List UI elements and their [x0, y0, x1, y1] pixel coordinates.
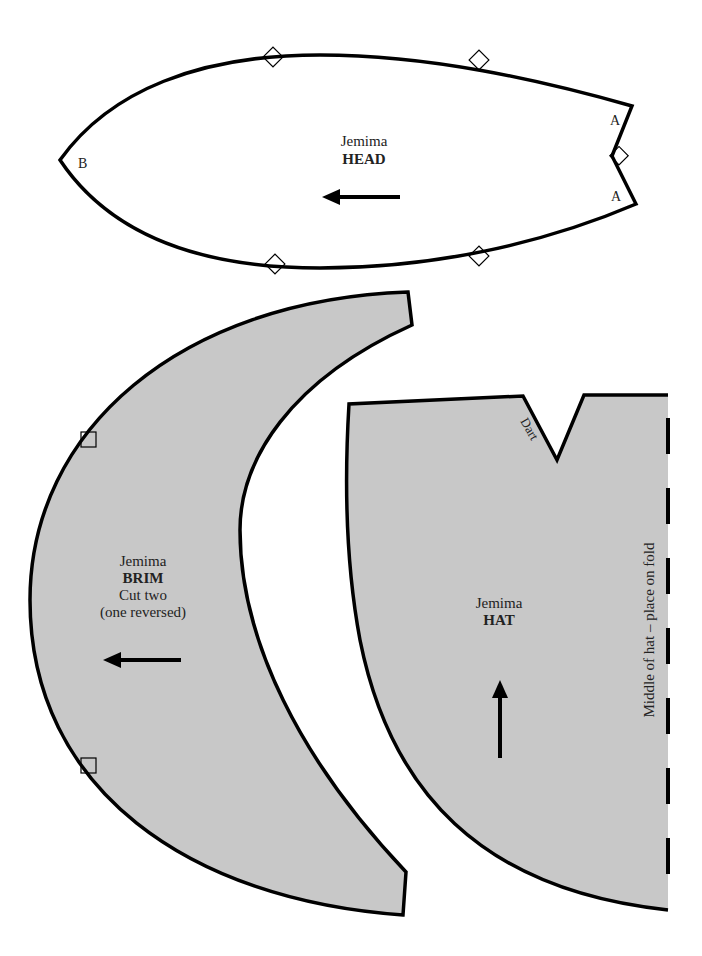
brim-cut-instruction: Cut two	[119, 587, 167, 603]
hat-pattern-piece: Dart Middle of hat – place on fold Jemim…	[347, 395, 668, 910]
hat-piece-name: Jemima	[476, 595, 523, 611]
hat-fill	[347, 395, 668, 910]
head-piece-name: Jemima	[341, 133, 388, 149]
head-piece-title: HEAD	[342, 151, 386, 167]
head-pattern-piece: B A A Jemima HEAD	[60, 47, 636, 274]
sewing-pattern-sheet: B A A Jemima HEAD Jemima BRIM Cut two (o…	[0, 0, 702, 956]
point-a-top-label: A	[610, 113, 621, 128]
brim-reverse-instruction: (one reversed)	[100, 604, 186, 621]
hat-piece-title: HAT	[483, 612, 514, 628]
point-b-label: B	[78, 156, 87, 171]
fold-instruction-label: Middle of hat – place on fold	[641, 542, 657, 717]
brim-piece-name: Jemima	[120, 553, 167, 569]
brim-piece-title: BRIM	[123, 570, 164, 586]
notch-marker-icon	[469, 50, 489, 70]
point-a-bottom-label: A	[611, 189, 622, 204]
